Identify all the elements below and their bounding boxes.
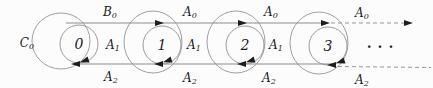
label-A0-3-sub: 0 [364,12,369,21]
label-A2-1-base: A [104,70,113,84]
state-label-1: 1 [158,38,167,52]
label-A2-2-sub: 2 [192,77,197,86]
state-diagram-figure: 0 1 2 3 C0 B0 A0 A0 A0 A1 A1 A1 A2 A2 A2… [0,0,433,88]
label-A0-3-base: A [355,6,364,20]
backward-transition-line-dashed [338,67,431,68]
label-A2-1-sub: 2 [113,76,118,85]
label-A0-2-sub: 0 [273,11,278,20]
arrowhead-backward-into-state-2-a [237,61,246,67]
label-A0-3: A0 [355,7,369,21]
self-loop-state-3 [290,12,348,74]
label-A2-3-base: A [262,71,271,85]
label-A2-3-sub: 2 [271,77,276,86]
state-label-0: 0 [75,37,84,51]
label-A1-2-base: A [187,38,196,52]
arrowhead-forward-continuation [404,20,413,26]
label-A1-1-base: A [106,38,115,52]
label-A2-4-base: A [355,73,364,87]
label-A0-2-base: A [264,5,273,19]
label-B0-sub: 0 [112,11,117,20]
label-A1-2-sub: 1 [196,44,201,53]
label-A2-4-sub: 2 [364,79,369,88]
arrowhead-backward-into-state-1-a [154,61,163,67]
state-label-2: 2 [241,38,250,52]
label-A1-1-sub: 1 [115,44,120,53]
arrowhead-forward-into-state-3 [321,20,330,26]
label-C0-base: C [20,36,29,50]
label-A2-3: A2 [262,72,276,86]
arrowhead-forward-into-state-1 [155,20,164,26]
arrowhead-backward-into-state-3-a [327,62,336,68]
label-B0: B0 [103,6,117,20]
continuation-ellipsis: ... [367,36,400,50]
label-A0-1-sub: 0 [192,11,197,20]
label-B0-base: B [103,5,112,19]
label-A1-3-base: A [269,38,278,52]
label-A2-1: A2 [104,71,118,85]
label-C0-sub: 0 [29,42,34,51]
label-A2-4: A2 [355,74,369,88]
label-A1-1: A1 [106,39,120,53]
arrowhead-forward-into-state-2 [238,20,247,26]
label-A0-1-base: A [183,5,192,19]
label-A0-2: A0 [264,6,278,20]
label-A2-2: A2 [183,72,197,86]
label-A2-2-base: A [183,71,192,85]
label-A1-3-sub: 1 [278,44,283,53]
arrowhead-self-loop-state-3 [335,58,345,67]
label-A1-3: A1 [269,39,283,53]
label-A0-1: A0 [183,6,197,20]
state-label-3: 3 [324,39,333,53]
label-C0: C0 [20,37,34,51]
label-A1-2: A1 [187,39,201,53]
